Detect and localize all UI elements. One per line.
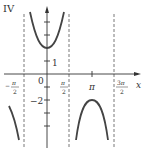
tick-1: 1 <box>52 58 58 68</box>
svg-text:3π: 3π <box>117 79 126 86</box>
svg-text:−: − <box>5 82 10 89</box>
svg-text:π: π <box>11 79 17 86</box>
panel-label: IV <box>3 3 15 14</box>
svg-text:2: 2 <box>120 88 124 95</box>
x-axis-arrow <box>134 72 141 76</box>
svg-text:π: π <box>60 79 66 86</box>
svg-text:2: 2 <box>62 88 66 95</box>
tick-pi: π <box>88 82 96 92</box>
tick-neg2: −2 <box>30 96 43 106</box>
tick-0: 0 <box>38 76 44 86</box>
frac-ticks: − π 2 π 2 3π 2 <box>5 79 128 95</box>
x-label: x <box>136 80 141 90</box>
y-axis-arrow <box>45 6 49 13</box>
secant-graph: IV 1 0 −2 x π − π 2 π 2 3π 2 <box>0 0 145 148</box>
svg-text:2: 2 <box>13 88 17 95</box>
